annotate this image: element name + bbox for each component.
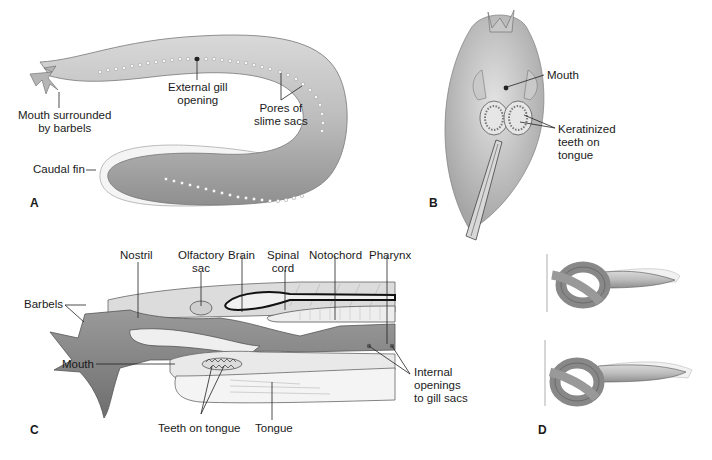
label-keratinized-teeth-on-tongue: Keratinized teeth on tongue bbox=[558, 123, 616, 162]
panel-letter-a: A bbox=[30, 196, 39, 210]
label-mouth-ventral: Mouth bbox=[547, 69, 579, 82]
label-caudal-fin: Caudal fin bbox=[33, 163, 85, 176]
illustration-canvas bbox=[0, 0, 712, 460]
label-line: External gill bbox=[168, 81, 227, 94]
label-olfactory-sac: Olfactory sac bbox=[178, 249, 224, 275]
label-line: tongue bbox=[558, 149, 616, 162]
label-tongue: Tongue bbox=[255, 422, 293, 435]
label-mouth-surrounded-by-barbels: Mouth surrounded by barbels bbox=[18, 109, 111, 135]
label-line: cord bbox=[267, 262, 299, 275]
label-external-gill-opening: External gill opening bbox=[168, 81, 227, 107]
panel-letter-b: B bbox=[429, 196, 438, 210]
label-line: Olfactory bbox=[178, 249, 224, 262]
label-line: Internal bbox=[414, 366, 468, 379]
label-nostril: Nostril bbox=[120, 249, 153, 262]
panel-c-sagittal-section bbox=[50, 282, 395, 418]
label-spinal-cord: Spinal cord bbox=[267, 249, 299, 275]
label-pores-of-slime-sacs: Pores of slime sacs bbox=[254, 102, 308, 128]
panel-letter-d: D bbox=[538, 423, 547, 437]
label-line: opening bbox=[168, 94, 227, 107]
label-barbels: Barbels bbox=[24, 298, 63, 311]
label-teeth-on-tongue: Teeth on tongue bbox=[158, 422, 241, 435]
label-mouth-section: Mouth bbox=[62, 358, 94, 371]
label-line: by barbels bbox=[18, 122, 111, 135]
label-line: sac bbox=[178, 262, 224, 275]
label-brain: Brain bbox=[228, 249, 255, 262]
label-line: teeth on bbox=[558, 136, 616, 149]
label-line: to gill sacs bbox=[414, 392, 468, 405]
label-internal-openings-to-gill-sacs: Internal openings to gill sacs bbox=[414, 366, 468, 405]
panel-letter-c: C bbox=[30, 423, 39, 437]
label-line: Pores of bbox=[254, 102, 308, 115]
label-notochord: Notochord bbox=[309, 249, 362, 262]
hagfish-anatomy-figure: Mouth surrounded by barbels External gil… bbox=[0, 0, 712, 460]
label-line: Spinal bbox=[267, 249, 299, 262]
label-line: slime sacs bbox=[254, 115, 308, 128]
panel-d-knotting-sequence bbox=[545, 254, 692, 406]
label-line: openings bbox=[414, 379, 468, 392]
label-pharynx: Pharynx bbox=[369, 249, 411, 262]
label-line: Keratinized bbox=[558, 123, 616, 136]
panel-b-head-ventral bbox=[445, 10, 544, 240]
label-line: Mouth surrounded bbox=[18, 109, 111, 122]
external-gill-opening-marker bbox=[194, 57, 199, 61]
